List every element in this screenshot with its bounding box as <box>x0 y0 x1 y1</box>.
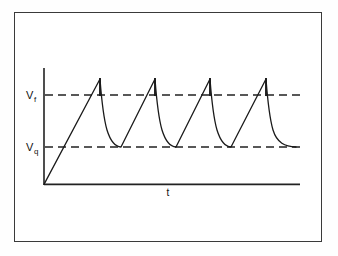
figure-border-frame <box>14 12 322 242</box>
figure-root: V f V q t <box>0 0 338 256</box>
